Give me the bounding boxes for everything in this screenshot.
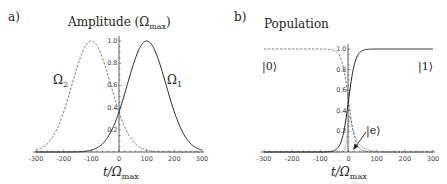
x-tick-label: 100 [140, 155, 152, 163]
x-tick-label: 300 [196, 155, 208, 163]
panel-b-letter: b) [234, 10, 246, 24]
x-tick-label: 0 [117, 155, 121, 163]
figure: a) Amplitude (Ωmax) -300-200-10001002003… [0, 0, 447, 184]
x-tick-label: -100 [84, 155, 99, 163]
x-tick-label: -300 [257, 155, 272, 163]
state-1-label: |1⟩ [418, 60, 433, 74]
panel-a-title: Amplitude (Ωmax) [67, 15, 171, 31]
state-0-label: |0⟩ [262, 60, 277, 74]
panel-a-xlabel: t/Ωmax [103, 165, 139, 181]
y-tick-label: 0.2 [336, 127, 346, 135]
x-tick-label: 200 [399, 155, 411, 163]
x-tick-label: 300 [427, 155, 439, 163]
x-tick-label: -100 [313, 155, 328, 163]
x-tick-label: 0 [346, 155, 350, 163]
panel-a: a) Amplitude (Ωmax) -300-200-10001002003… [8, 10, 208, 181]
panel-a-letter: a) [8, 10, 20, 24]
panel-b-title: Population [264, 17, 329, 31]
y-tick-label: 0.8 [107, 59, 117, 67]
x-tick-label: 200 [168, 155, 180, 163]
x-tick-label: -200 [285, 155, 300, 163]
panel-b: b) Population -300-200-10001002003000.20… [234, 10, 439, 181]
panel-b-xlabel: t/Ωmax [331, 165, 367, 181]
panel-a-axes: -300-200-10001002003000.20.40.60.81.0 [29, 36, 209, 163]
x-tick-label: -300 [29, 155, 44, 163]
y-tick-label: 1.0 [107, 37, 117, 45]
y-tick-label: 0.6 [107, 81, 117, 89]
y-tick-label: 1.0 [336, 45, 346, 53]
omega1-label: Ω1 [167, 73, 182, 89]
x-tick-label: 100 [370, 155, 382, 163]
y-tick-label: 0.4 [107, 104, 117, 112]
x-tick-label: -200 [56, 155, 71, 163]
y-tick-label: 0.4 [336, 107, 346, 115]
state-e-label: |e⟩ [366, 124, 381, 138]
y-tick-label: 0.8 [336, 66, 346, 74]
y-tick-label: 0.6 [336, 86, 346, 94]
state-e-arrow [353, 132, 366, 150]
omega2-label: Ω2 [53, 73, 68, 89]
